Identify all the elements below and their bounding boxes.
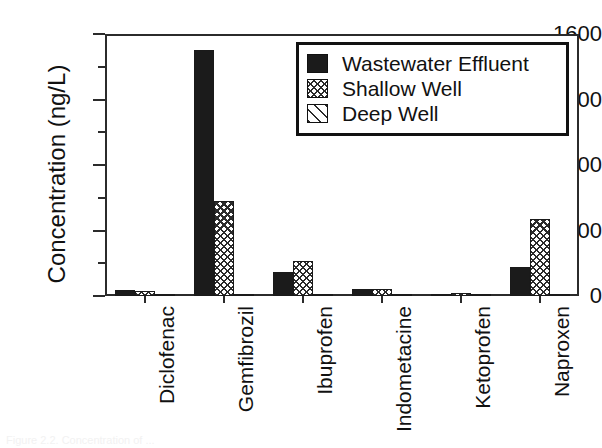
- legend-label: Wastewater Effluent: [342, 53, 529, 74]
- y-tick-minor: [98, 131, 105, 133]
- bar: [530, 219, 550, 296]
- y-tick-minor: [98, 197, 105, 199]
- x-tick: [223, 296, 225, 303]
- legend-label: Shallow Well: [342, 78, 462, 99]
- bar: [510, 267, 530, 296]
- bar: [194, 50, 214, 296]
- x-axis-label: Ketoprofen: [472, 306, 493, 448]
- x-axis-label: Naproxen: [551, 306, 572, 448]
- legend-item-deep-well: Deep Well: [307, 101, 558, 126]
- bar: [273, 272, 293, 296]
- x-axis-label: Indometacine: [393, 306, 414, 448]
- bar: [352, 289, 372, 296]
- bar: [313, 294, 333, 296]
- bar: [293, 261, 313, 296]
- bar-chart-figure: Concentration (ng/L) 0 400 800 1200 1600…: [0, 0, 602, 448]
- y-tick-minor: [98, 262, 105, 264]
- bar: [115, 290, 135, 296]
- y-tick-major: [93, 164, 105, 166]
- x-axis-label: Gemfibrozil: [235, 306, 256, 448]
- bar: [392, 294, 412, 296]
- legend-item-wastewater-effluent: Wastewater Effluent: [307, 51, 558, 76]
- y-tick-major: [93, 230, 105, 232]
- y-tick-minor: [98, 66, 105, 68]
- y-axis-title: Concentration (ng/L): [43, 14, 71, 334]
- x-tick: [460, 296, 462, 303]
- y-tick-major: [93, 295, 105, 297]
- x-axis-label: Ibuprofen: [314, 306, 335, 448]
- figure-caption: Figure 2.2. Concentration of ...: [6, 434, 306, 446]
- x-tick: [302, 296, 304, 303]
- legend-swatch-crosshatch-icon: [307, 79, 328, 98]
- y-tick-major: [93, 99, 105, 101]
- bar: [372, 289, 392, 296]
- bar: [234, 294, 254, 296]
- y-tick-major: [93, 33, 105, 35]
- x-tick: [144, 296, 146, 303]
- legend-item-shallow-well: Shallow Well: [307, 76, 558, 101]
- legend-label: Deep Well: [342, 103, 439, 124]
- bar: [155, 294, 175, 296]
- legend: Wastewater Effluent Shallow Well Deep We…: [296, 42, 569, 136]
- x-axis-label: Diclofenac: [156, 306, 177, 448]
- bar: [431, 294, 451, 296]
- legend-swatch-solid-icon: [307, 54, 328, 73]
- x-tick: [381, 296, 383, 303]
- legend-swatch-diagonal-icon: [307, 104, 328, 123]
- x-tick: [539, 296, 541, 303]
- bar: [550, 294, 570, 296]
- bar: [471, 294, 491, 296]
- bar: [214, 201, 234, 296]
